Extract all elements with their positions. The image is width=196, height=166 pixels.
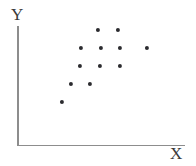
- data-point: [78, 64, 82, 68]
- data-point: [116, 28, 120, 32]
- data-point: [118, 64, 122, 68]
- data-point: [60, 100, 64, 104]
- data-point: [96, 28, 100, 32]
- data-point: [99, 46, 103, 50]
- data-point: [88, 82, 92, 86]
- scatter-plot-figure: Y X: [0, 0, 196, 166]
- data-point: [118, 46, 122, 50]
- y-axis-label: Y: [11, 6, 23, 23]
- data-point: [69, 82, 73, 86]
- y-axis-line: [17, 26, 19, 146]
- data-point: [145, 46, 149, 50]
- data-point: [98, 64, 102, 68]
- x-axis-line: [17, 145, 185, 147]
- x-axis-label: X: [170, 145, 182, 162]
- data-point: [79, 46, 83, 50]
- scatter-data-layer: [0, 0, 196, 166]
